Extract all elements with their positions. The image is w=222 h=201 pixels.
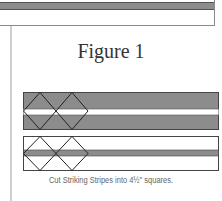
light-strip-diagram xyxy=(23,136,219,171)
figure-caption: Cut Striking Stripes into 4½" squares. xyxy=(13,175,208,185)
dark-strip-diagram xyxy=(23,92,219,130)
figure-title: Figure 1 xyxy=(0,40,222,63)
previous-figure-panel xyxy=(0,0,215,26)
previous-figure-band xyxy=(0,2,214,10)
